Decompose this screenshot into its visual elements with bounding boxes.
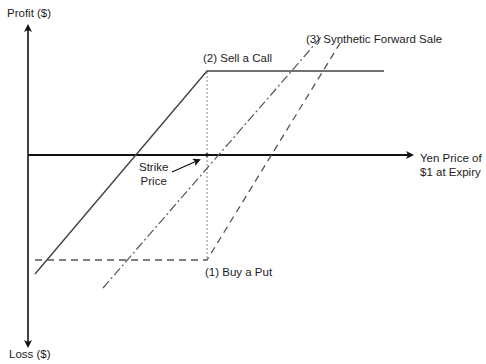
sell-call-line xyxy=(35,71,384,274)
x-axis-label-line2: $1 at Expiry xyxy=(420,165,482,179)
strike-pointer-arrow xyxy=(172,160,199,172)
strike-price-label: Strike Price xyxy=(139,160,168,188)
strike-price-label-line2: Price xyxy=(139,174,168,188)
x-axis-label-line1: Yen Price of xyxy=(420,151,482,165)
sell-call-label: (2) Sell a Call xyxy=(203,51,272,65)
strike-price-label-line1: Strike xyxy=(139,160,168,174)
strike-point xyxy=(205,153,209,157)
y-axis-top-label: Profit ($) xyxy=(7,6,51,20)
synthetic-forward-label: (3) Synthetic Forward Sale xyxy=(306,32,442,46)
buy-put-label: (1) Buy a Put xyxy=(205,265,272,279)
x-axis-label: Yen Price of $1 at Expiry xyxy=(420,151,482,179)
buy-put-line xyxy=(35,40,342,260)
y-axis-bottom-label: Loss ($) xyxy=(9,347,51,361)
